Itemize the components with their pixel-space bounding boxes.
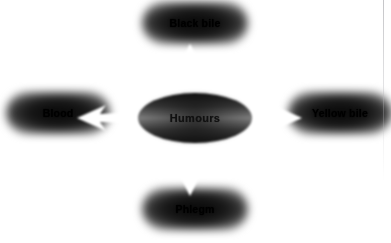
node-label-blood: Blood bbox=[6, 92, 110, 134]
hub-label: Humours bbox=[131, 87, 259, 149]
node-label-phlegm: Phlegm bbox=[142, 188, 248, 230]
node-label-yellow-bile: Yellow bile bbox=[288, 92, 391, 134]
diagram-canvas: Humours Black bile Blood Yellow bile Phl… bbox=[0, 0, 391, 243]
node-label-black-bile: Black bile bbox=[142, 2, 248, 44]
scan-edge-line bbox=[383, 0, 384, 243]
hub-humours: Humours bbox=[131, 87, 259, 149]
